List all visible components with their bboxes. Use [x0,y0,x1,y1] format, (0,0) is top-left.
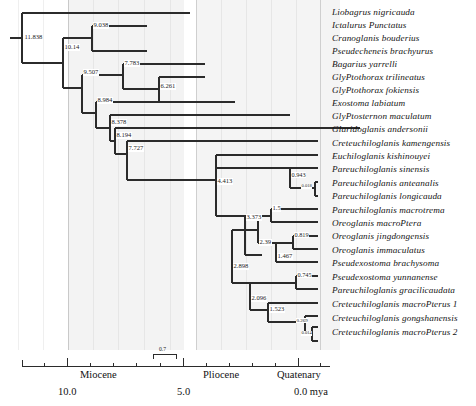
node-label-n13: 0.018 [301,184,312,189]
node-label-n2: 10.14 [64,44,80,51]
node-label-n23: 0.269 [296,318,308,323]
tip-label: Pareuchiloglanis sinensis [332,164,429,174]
tip-label: Liobagrus nigricauda [332,7,415,17]
phylogenetic-tree-figure: 11.838 10.14 9.038 9.507 7.783 6.261 8.9… [0,0,476,406]
tip-label: Oreoglanis macroPtera [332,218,421,228]
scale-bar-label: 0.7 [159,346,166,352]
tip-label: Creteuchiloglanis macroPterus 2 [332,327,458,337]
tip-label: Bagarius yarrelli [332,59,397,69]
node-label-n12: 0.943 [291,172,306,178]
tip-label: Creteuchiloglanis kamengensis [332,138,450,148]
node-label-n5: 7.783 [124,60,140,67]
node-label-n18: 1.467 [277,253,293,260]
tip-label: Pareuchiloglanis longicauda [332,191,442,201]
tree-branches [0,0,476,406]
node-label-n21: 2.096 [251,295,267,302]
tip-label: Creteuchiloglanis macroPterus 1 [332,299,458,309]
node-label-n17: 0.819 [294,232,309,238]
node-label-n4: 9.507 [83,69,99,76]
epoch-label-miocene: Miocene [80,369,117,380]
node-label-n14: 3.373 [246,214,262,221]
node-label-n6: 6.261 [160,83,176,90]
time-axis [22,358,330,366]
tip-label: Pseudexostoma brachysoma [332,258,439,268]
tip-label: Creteuchiloglanis gongshanensis [332,313,458,323]
tip-label: Pseudexostoma yunnanense [332,272,438,282]
axis-tick-0: 0.0 mya [294,386,328,397]
node-label-n15: 1.5 [272,205,281,212]
node-label-n24: 0.014 [301,331,312,336]
node-label-n8: 8.378 [111,119,127,126]
scale-bar [153,354,176,359]
tip-label: Euchiloglanis kishinouyei [332,151,430,161]
tip-label: Ictalurus Punctatus [332,20,407,30]
epoch-label-quatenary: Quatenary [277,369,321,380]
epoch-label-pliocene: Pliocene [203,369,239,380]
node-label-n1: 11.838 [24,34,43,41]
tip-label: GlyPtothorax trilineatus [332,72,425,82]
node-label-n9: 8.194 [116,132,132,139]
tip-label: Exostoma labiatum [332,98,405,108]
axis-tick-10: 10.0 [58,386,76,397]
tip-label: GlyPtothorax fokiensis [332,85,419,95]
tip-label: Pareuchiloglanis anteanalis [332,178,439,188]
node-label-n10: 7.727 [128,145,144,152]
tip-label: Pseudecheneis brachyurus [332,46,433,56]
node-label-n16: 2.39 [259,239,272,246]
tip-label: Pareuchiloglanis gracilicaudata [332,285,455,295]
node-label-n20: 0.745 [297,272,312,278]
tip-label: Pareuchiloglanis macrotrema [332,205,445,215]
node-label-n11: 4.413 [217,178,233,185]
node-label-n3: 9.038 [93,22,109,29]
node-label-n7: 8.984 [97,97,113,104]
tip-label: Glaridoglanis andersonii [332,124,428,134]
node-label-n19: 2.898 [233,263,249,270]
tip-label: Cranoglanis bouderius [332,33,420,43]
tip-label: Oreoglanis jingdongensis [332,231,429,241]
node-label-n22: 1.523 [269,306,285,313]
tip-label: GlyPtosternon maculatum [332,111,431,121]
axis-tick-5: 5.0 [177,386,190,397]
tip-label: Oreoglanis immaculatus [332,245,425,255]
